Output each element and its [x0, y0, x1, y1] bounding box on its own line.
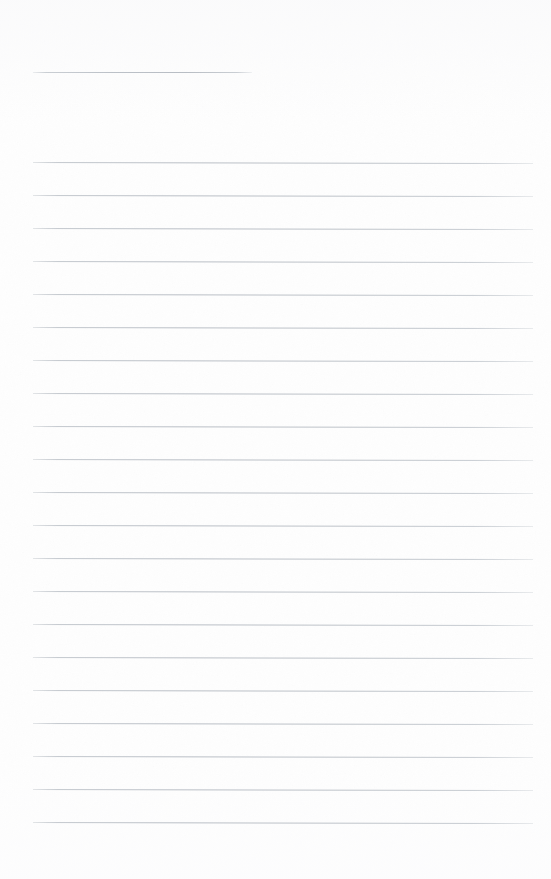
- ruled-line: [33, 690, 533, 692]
- ruled-line: [33, 228, 533, 230]
- ruled-line: [33, 723, 533, 725]
- notebook-page: [0, 0, 551, 879]
- paper-texture: [0, 0, 551, 879]
- ruled-line: [33, 657, 533, 659]
- ruled-line: [33, 525, 533, 527]
- title-rule: [33, 72, 252, 73]
- ruled-line: [33, 822, 533, 824]
- ruled-line: [33, 294, 533, 296]
- ruled-line: [33, 756, 533, 758]
- ruled-line: [33, 492, 533, 494]
- ruled-line: [33, 327, 533, 329]
- ruled-line: [33, 591, 533, 593]
- ruled-line: [33, 261, 533, 263]
- ruled-line: [33, 789, 533, 791]
- ruled-line: [33, 195, 533, 197]
- ruled-line: [33, 624, 533, 626]
- paper-tint: [0, 0, 551, 879]
- ruled-line: [33, 360, 533, 362]
- ruled-line: [33, 459, 533, 461]
- ruled-line: [33, 162, 533, 164]
- ruled-line: [33, 426, 533, 428]
- ruled-line: [33, 393, 533, 395]
- ruled-line: [33, 558, 533, 560]
